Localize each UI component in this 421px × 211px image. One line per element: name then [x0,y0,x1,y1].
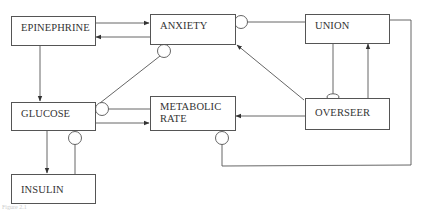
node-label: UNION [315,20,349,31]
node-label: GLUCOSE [21,108,70,119]
node-anxiety: ANXIETY [150,14,236,45]
node-metabolic-rate: METABOLIC RATE [150,96,236,131]
node-glucose: GLUCOSE [11,102,96,131]
figure-caption: Figure 2.1 [2,204,27,210]
inhibit-circle-icon [158,45,171,58]
node-label: EPINEPHRINE [21,22,90,33]
inhibit-circle-icon [96,103,109,116]
inhibit-circle-icon [235,16,248,29]
node-overseer: OVERSEER [305,98,390,130]
node-insulin: INSULIN [11,174,96,204]
node-label: ANXIETY [160,20,207,31]
edge-overseer-to-anxiety [237,45,304,100]
inhibit-circle-icon [69,132,82,145]
node-label: INSULIN [21,184,64,195]
node-label: OVERSEER [315,107,370,118]
node-label-line-2: RATE [160,113,235,125]
inhibit-circle-icon [216,132,229,145]
node-label-line-1: METABOLIC [160,101,235,113]
node-union: UNION [305,14,390,44]
node-epinephrine: EPINEPHRINE [11,16,96,46]
